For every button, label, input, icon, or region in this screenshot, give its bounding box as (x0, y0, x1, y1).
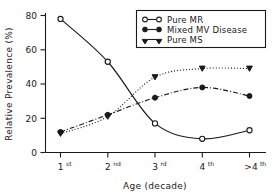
y-tick-label-40: 40 (26, 79, 38, 89)
x-tick-label-over4th: >4 th (244, 160, 266, 173)
data-point-mixed-mv-disease-3rd (153, 95, 158, 100)
data-point-pure-mr-4th (200, 136, 205, 141)
x-tick-label-4th: 4 th (199, 160, 214, 173)
data-point-pure-ms-3rd (152, 75, 158, 80)
y-tick-label-0: 0 (31, 148, 37, 158)
y-axis: 80 60 40 20 0 Relative Prevalence (%) (4, 11, 46, 158)
x-tick-label-1st-base: 1 (58, 162, 64, 172)
chart-legend: Pure MR Mixed MV Disease Pure MS (137, 11, 266, 48)
x-tick-label-4th-base: 4 (199, 162, 205, 172)
y-tick-label-60: 60 (26, 45, 38, 55)
legend-label-pure-ms: Pure MS (167, 35, 203, 45)
data-point-pure-mr->4th (247, 128, 252, 133)
x-axis-title: Age (decade) (123, 181, 187, 191)
data-point-mixed-mv-disease->4th (247, 93, 252, 98)
y-axis-title: Relative Prevalence (%) (4, 27, 14, 141)
legend-label-pure-mr: Pure MR (167, 15, 203, 25)
x-tick-label-4th-super: th (208, 160, 214, 167)
x-tick-label-2nd-super: nd (113, 160, 121, 167)
x-tick-label-1st-super: st (66, 160, 72, 167)
x-tick-label-1st: 1 st (58, 160, 72, 173)
data-point-pure-ms->4th (247, 66, 253, 71)
chart-plot-area: 80 60 40 20 0 Relative Prevalence (%) 1 … (0, 0, 274, 194)
legend-marker-filled-circle-2-icon (157, 27, 162, 32)
y-tick-label-80: 80 (26, 11, 38, 21)
data-point-pure-mr-1st (58, 16, 63, 21)
x-tick-label-2nd-base: 2 (105, 162, 111, 172)
x-axis: 1 st 2 nd 3 rd 4 th >4 th Age (decade) (46, 153, 267, 192)
legend-label-mixed-mv-disease: Mixed MV Disease (167, 25, 247, 35)
x-tick-label-3rd: 3 rd (152, 160, 167, 173)
series-mixed-mv-disease (58, 85, 252, 135)
x-tick-label-2nd: 2 nd (105, 160, 121, 173)
x-tick-label-3rd-super: rd (161, 160, 167, 167)
x-tick-label-3rd-base: 3 (152, 162, 158, 172)
data-point-mixed-mv-disease-4th (200, 85, 205, 90)
data-point-pure-mr-3rd (152, 121, 157, 126)
x-tick-label-over4th-base: >4 (244, 162, 258, 172)
legend-marker-filled-circle-icon (143, 27, 148, 32)
data-point-pure-mr-2nd (105, 59, 110, 64)
legend-marker-open-circle-2-icon (157, 17, 162, 22)
legend-marker-open-circle-icon (143, 17, 148, 22)
y-tick-label-20: 20 (26, 114, 38, 124)
x-tick-label-over4th-super: th (260, 160, 266, 167)
chart-figure: 80 60 40 20 0 Relative Prevalence (%) 1 … (0, 0, 274, 194)
